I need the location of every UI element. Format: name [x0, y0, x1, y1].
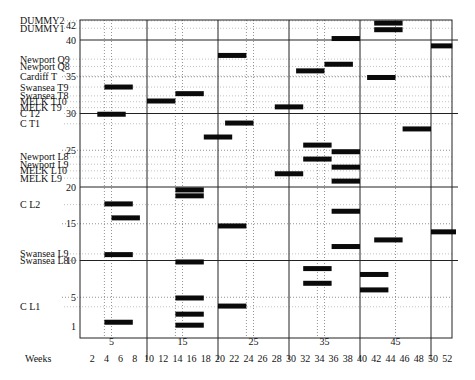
- task-bar: [104, 252, 132, 257]
- y-tick-label: 30: [66, 108, 76, 119]
- row-labels: DUMMY2DUMMY1Newport Q9Newport Q8Cardiff …: [20, 15, 70, 312]
- gantt-chart: DUMMY2DUMMY1Newport Q9Newport Q8Cardiff …: [0, 0, 475, 380]
- x-tick-label: 38: [343, 353, 353, 364]
- task-bar: [431, 43, 452, 48]
- task-bar: [332, 244, 360, 249]
- y-tick-label: 10: [66, 255, 76, 266]
- task-bar: [303, 281, 331, 286]
- y-tick-label: 42: [66, 20, 76, 31]
- task-bar: [332, 149, 360, 154]
- x-tick-label: 16: [187, 353, 197, 364]
- x-tick-label: 50: [428, 353, 438, 364]
- row-label: C L2: [20, 199, 40, 210]
- task-bar: [97, 112, 125, 117]
- task-bar: [360, 272, 388, 277]
- x-tick-label: 4: [104, 353, 109, 364]
- x-axis-ticks: 2468101214161820222426283032343638404244…: [90, 353, 453, 364]
- x-major-label: 45: [391, 336, 401, 347]
- x-major-label: 15: [178, 336, 188, 347]
- x-tick-label: 30: [286, 353, 296, 364]
- x-tick-label: 46: [400, 353, 410, 364]
- y-tick-label: 35: [66, 71, 76, 82]
- x-major-label: 35: [320, 336, 330, 347]
- x-tick-label: 18: [201, 353, 211, 364]
- task-bar: [175, 187, 203, 192]
- task-bar: [112, 215, 140, 220]
- task-bar: [104, 201, 132, 206]
- x-tick-label: 6: [118, 353, 123, 364]
- task-bar: [303, 143, 331, 148]
- x-tick-label: 28: [272, 353, 282, 364]
- row-label: DUMMY1: [20, 23, 64, 34]
- task-bar: [175, 323, 203, 328]
- task-bar: [332, 165, 360, 170]
- x-tick-label: 26: [258, 353, 268, 364]
- x-major-label: 5: [109, 336, 114, 347]
- x-tick-label: 48: [414, 353, 424, 364]
- task-bar: [175, 295, 203, 300]
- task-bar: [204, 135, 232, 140]
- x-tick-label: 42: [371, 353, 381, 364]
- task-bar: [325, 62, 353, 67]
- x-tick-label: 52: [442, 353, 452, 364]
- task-bar: [275, 171, 303, 176]
- x-tick-label: 44: [385, 353, 395, 364]
- task-bar: [218, 223, 246, 228]
- task-bar: [374, 237, 402, 242]
- x-tick-label: 10: [144, 353, 154, 364]
- x-tick-label: 2: [90, 353, 95, 364]
- plot-frame: [80, 20, 452, 338]
- dotted-gridlines: [62, 20, 452, 338]
- task-bar: [218, 53, 246, 58]
- task-bar: [303, 266, 331, 271]
- row-label: Swansea L8: [20, 255, 69, 266]
- x-tick-label: 36: [329, 353, 339, 364]
- row-label: Cardiff T: [20, 71, 57, 82]
- task-bar: [374, 27, 402, 32]
- row-label: C T1: [20, 118, 40, 129]
- task-bar: [218, 304, 246, 309]
- row-label: MELK L9: [20, 173, 62, 184]
- x-tick-label: 12: [158, 353, 168, 364]
- x-tick-label: 24: [243, 353, 253, 364]
- task-bar: [147, 99, 175, 104]
- task-bar: [332, 209, 360, 214]
- x-tick-label: 34: [314, 353, 324, 364]
- task-bar: [360, 287, 388, 292]
- task-bar: [374, 21, 402, 26]
- task-bar: [332, 36, 360, 41]
- task-bar: [104, 85, 132, 90]
- y-tick-label: 5: [71, 292, 76, 303]
- x-tick-label: 32: [300, 353, 310, 364]
- task-bar: [367, 75, 395, 80]
- solid-gridlines: [80, 20, 458, 360]
- task-bar: [296, 68, 324, 73]
- x-tick-label: 22: [229, 353, 239, 364]
- task-bar: [175, 312, 203, 317]
- task-bar: [175, 91, 203, 96]
- task-bar: [104, 320, 132, 325]
- row-label: C L1: [20, 301, 40, 312]
- y-tick-label: 20: [66, 182, 76, 193]
- y-tick-label: 15: [66, 218, 76, 229]
- task-bar: [431, 229, 456, 234]
- task-bar: [225, 121, 253, 126]
- y-tick-label: 25: [66, 145, 76, 156]
- task-bar: [175, 193, 203, 198]
- x-major-label: 25: [249, 336, 259, 347]
- x-tick-label: 8: [132, 353, 137, 364]
- y-tick-label: 40: [66, 35, 76, 46]
- task-bar: [275, 104, 303, 109]
- y-tick-label: 1: [71, 321, 76, 332]
- x-tick-label: 40: [357, 353, 367, 364]
- x-tick-label: 14: [172, 353, 182, 364]
- task-bar: [303, 157, 331, 162]
- x-axis-title: Weeks: [25, 353, 52, 364]
- task-bar: [332, 179, 360, 184]
- task-bar: [403, 126, 431, 131]
- x-tick-label: 20: [215, 353, 225, 364]
- task-bar: [175, 259, 203, 264]
